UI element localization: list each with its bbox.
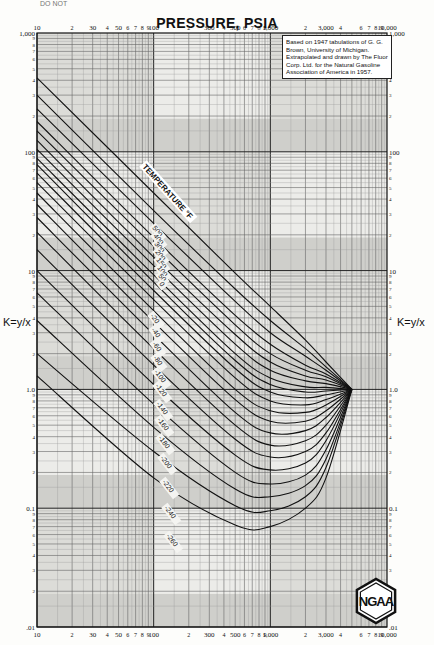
svg-text:4: 4 [33,78,36,83]
svg-text:.01: .01 [26,624,35,632]
svg-text:2: 2 [71,25,74,31]
svg-text:3: 3 [33,568,36,573]
svg-text:3: 3 [33,93,36,98]
svg-text:8: 8 [141,25,144,31]
svg-text:6: 6 [243,25,246,31]
svg-text:4: 4 [389,316,392,321]
svg-text:8: 8 [258,632,261,638]
svg-text:6: 6 [389,414,392,419]
svg-text:7: 7 [389,406,392,411]
svg-text:4: 4 [106,632,109,638]
svg-text:5: 5 [33,423,36,428]
svg-text:500: 500 [230,631,241,639]
svg-text:7: 7 [134,632,137,638]
svg-text:9: 9 [33,155,36,160]
svg-text:300: 300 [204,631,215,639]
svg-text:6: 6 [33,176,36,181]
svg-text:8: 8 [389,280,392,285]
svg-text:100: 100 [148,631,159,639]
svg-text:7: 7 [389,168,392,173]
svg-text:6: 6 [33,295,36,300]
svg-text:30: 30 [89,631,97,639]
svg-text:4: 4 [33,553,36,558]
svg-text:500: 500 [230,24,241,32]
svg-text:5: 5 [33,186,36,191]
svg-text:2: 2 [33,233,36,238]
svg-text:6: 6 [389,533,392,538]
svg-text:2: 2 [187,632,190,638]
svg-text:8: 8 [33,399,36,404]
svg-text:1,000: 1,000 [262,631,278,639]
svg-text:2: 2 [304,632,307,638]
svg-text:2: 2 [71,632,74,638]
svg-text:4: 4 [339,25,342,31]
y-axis-label-right: K=y/x [397,316,425,328]
svg-text:4: 4 [222,632,225,638]
svg-text:8: 8 [141,632,144,638]
svg-text:4: 4 [33,316,36,321]
svg-text:4: 4 [389,78,392,83]
svg-text:4: 4 [33,197,36,202]
svg-text:3: 3 [389,93,392,98]
svg-text:2: 2 [389,470,392,475]
svg-text:3: 3 [33,212,36,217]
svg-text:6: 6 [360,25,363,31]
svg-text:6: 6 [243,632,246,638]
svg-text:8: 8 [389,518,392,523]
svg-text:8: 8 [33,161,36,166]
svg-text:4: 4 [33,435,36,440]
svg-text:9: 9 [33,274,36,279]
svg-text:7: 7 [33,168,36,173]
svg-text:2: 2 [304,25,307,31]
svg-text:6: 6 [389,176,392,181]
svg-text:2: 2 [389,352,392,357]
svg-text:4: 4 [389,197,392,202]
svg-text:4: 4 [389,553,392,558]
svg-text:4: 4 [339,632,342,638]
svg-text:6: 6 [126,25,129,31]
svg-text:50: 50 [115,24,123,32]
svg-text:7: 7 [134,25,137,31]
svg-text:7: 7 [389,287,392,292]
svg-text:8: 8 [33,518,36,523]
svg-text:7: 7 [33,49,36,54]
svg-text:8: 8 [33,280,36,285]
svg-text:7: 7 [33,525,36,530]
svg-text:2: 2 [33,589,36,594]
svg-text:6: 6 [33,57,36,62]
svg-text:7: 7 [389,525,392,530]
svg-text:3: 3 [33,450,36,455]
svg-text:3: 3 [389,568,392,573]
y-axis-label-left: K=y/x [3,316,31,328]
svg-text:9: 9 [33,512,36,517]
svg-text:6: 6 [360,632,363,638]
svg-text:2: 2 [33,470,36,475]
svg-text:10: 10 [34,631,42,639]
svg-text:3,000: 3,000 [318,24,334,32]
svg-text:5: 5 [33,67,36,72]
svg-text:30: 30 [89,24,97,32]
svg-text:9: 9 [33,393,36,398]
svg-text:3: 3 [389,331,392,336]
svg-text:3: 3 [389,450,392,455]
ngaa-logo: NGAA [357,579,395,623]
svg-text:3: 3 [33,331,36,336]
svg-text:4: 4 [106,25,109,31]
svg-text:9: 9 [33,36,36,41]
svg-text:.01: .01 [389,624,398,632]
svg-text:5: 5 [389,186,392,191]
svg-text:5: 5 [33,304,36,309]
svg-text:6: 6 [33,414,36,419]
svg-text:5: 5 [389,542,392,547]
svg-text:6: 6 [33,533,36,538]
svg-text:7: 7 [251,25,254,31]
svg-text:7: 7 [367,25,370,31]
svg-text:10,000: 10,000 [377,631,397,639]
svg-text:NGAA: NGAA [359,594,395,609]
svg-text:50: 50 [115,631,123,639]
svg-text:2: 2 [389,114,392,119]
svg-text:5: 5 [389,423,392,428]
svg-text:7: 7 [251,632,254,638]
svg-text:8: 8 [33,43,36,48]
svg-text:1,000: 1,000 [262,24,278,32]
